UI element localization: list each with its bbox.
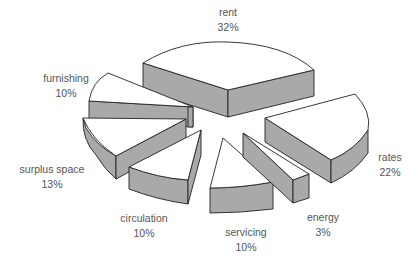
label-furnishing: furnishing 10% [43, 71, 89, 101]
label-circulation-name: circulation [120, 211, 167, 226]
label-servicing-value: 10% [225, 240, 266, 255]
label-rates-value: 22% [378, 165, 401, 180]
label-furnishing-name: furnishing [43, 71, 89, 86]
label-energy-value: 3% [307, 225, 339, 240]
label-servicing: servicing 10% [225, 225, 266, 255]
label-surplus-space: surplus space 13% [20, 162, 85, 192]
label-rent-value: 32% [217, 20, 238, 35]
label-circulation: circulation 10% [120, 211, 167, 241]
label-servicing-name: servicing [225, 225, 266, 240]
label-rent: rent 32% [217, 5, 238, 35]
label-energy-name: energy [307, 210, 339, 225]
label-furnishing-value: 10% [43, 86, 89, 101]
label-surplus-space-value: 13% [20, 177, 85, 192]
label-rent-name: rent [217, 5, 238, 20]
label-rates-name: rates [378, 150, 401, 165]
label-surplus-space-name: surplus space [20, 162, 85, 177]
label-rates: rates 22% [378, 150, 401, 180]
pie-chart [0, 0, 418, 259]
label-energy: energy 3% [307, 210, 339, 240]
label-circulation-value: 10% [120, 226, 167, 241]
